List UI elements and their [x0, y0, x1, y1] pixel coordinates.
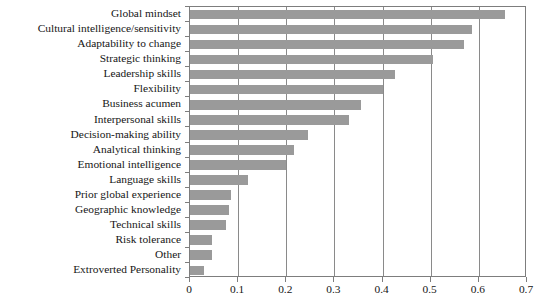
bar-chart: Global mindsetCultural intelligence/sens… [0, 0, 538, 303]
category-label: Business acumen [102, 97, 181, 109]
bar-row [190, 67, 527, 82]
bar-row [190, 203, 527, 218]
bar-row [190, 52, 527, 67]
x-axis-tick-label: 0.1 [230, 282, 244, 296]
bar-risk-tolerance [190, 235, 212, 245]
bar-row [190, 173, 527, 188]
bar-geographic-knowledge [190, 205, 229, 215]
bar-adaptability-to-change [190, 40, 464, 50]
bar-strategic-thinking [190, 55, 433, 65]
x-axis-tick-label: 0.3 [326, 282, 340, 296]
category-label: Interpersonal skills [94, 113, 181, 125]
bar-row [190, 112, 527, 127]
bar-row [190, 158, 527, 173]
bar-row [190, 97, 527, 112]
category-label: Strategic thinking [100, 52, 181, 64]
bar-row [190, 82, 527, 97]
bar-row [190, 188, 527, 203]
category-label: Leadership skills [103, 67, 181, 79]
x-axis-tick-label: 0.7 [519, 282, 533, 296]
bar-interpersonal-skills [190, 115, 349, 125]
category-label: Other [155, 248, 181, 260]
bar-language-skills [190, 175, 248, 185]
bar-row [190, 263, 527, 278]
bar-flexibility [190, 85, 383, 95]
x-axis-tick-label: 0.6 [471, 282, 485, 296]
x-axis-labels: 00.10.20.30.40.50.60.7 [0, 282, 538, 300]
bar-row [190, 218, 527, 233]
x-axis-tick-label: 0.2 [278, 282, 292, 296]
bar-global-mindset [190, 10, 505, 20]
bar-row [190, 233, 527, 248]
plot-area [189, 6, 526, 277]
category-label: Emotional intelligence [78, 158, 181, 170]
category-label: Decision-making ability [71, 128, 181, 140]
x-axis-tick-label: 0.5 [423, 282, 437, 296]
category-axis: Global mindsetCultural intelligence/sens… [0, 6, 186, 277]
bar-row [190, 127, 527, 142]
category-label: Language skills [109, 173, 181, 185]
category-label: Extroverted Personality [73, 263, 181, 275]
bar-prior-global-experience [190, 190, 231, 200]
bar-technical-skills [190, 220, 226, 230]
bar-emotional-intelligence [190, 160, 286, 170]
bar-row [190, 143, 527, 158]
category-label: Risk tolerance [116, 233, 181, 245]
bar-row [190, 248, 527, 263]
bar-cultural-intelligence-sensitivity [190, 25, 472, 35]
bar-analytical-thinking [190, 145, 294, 155]
category-label: Cultural intelligence/sensitivity [38, 22, 181, 34]
bar-row [190, 37, 527, 52]
bar-extroverted-personality [190, 266, 204, 276]
bar-series [190, 7, 525, 276]
bar-row [190, 7, 527, 22]
bar-other [190, 250, 212, 260]
x-axis-tick-label: 0 [186, 282, 192, 296]
category-label: Adaptability to change [77, 37, 181, 49]
category-label: Technical skills [110, 218, 181, 230]
bar-leadership-skills [190, 70, 395, 80]
bar-business-acumen [190, 100, 361, 110]
bar-row [190, 22, 527, 37]
x-axis-tick-label: 0.4 [374, 282, 388, 296]
category-label: Geographic knowledge [75, 203, 181, 215]
bar-decision-making-ability [190, 130, 308, 140]
category-label: Prior global experience [75, 188, 181, 200]
category-label: Analytical thinking [93, 143, 181, 155]
category-label: Flexibility [134, 82, 181, 94]
category-label: Global mindset [111, 7, 181, 19]
